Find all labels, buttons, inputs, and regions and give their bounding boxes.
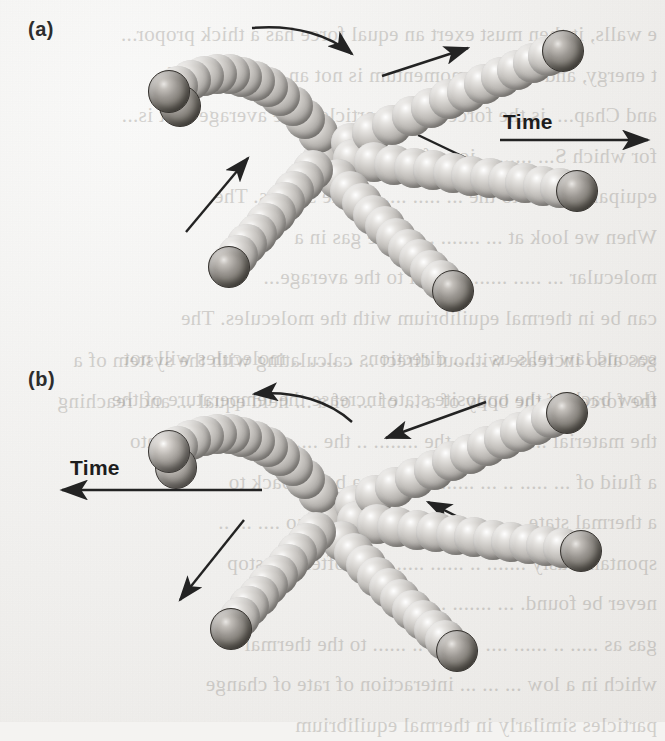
panel-b-curved-rotation-arrow [254, 393, 352, 422]
panel-b-trail-diatomic-head-sphere-1 [148, 430, 191, 473]
panel-a-arrow-lower-left [186, 158, 248, 232]
panel-a-arrow-upper-right [382, 48, 468, 76]
panel-b: (b) Time [0, 350, 665, 722]
panel-a-trail-diatomic-head-sphere-1 [148, 70, 191, 113]
panel-b-arrow-lower-left [180, 520, 244, 600]
panel-a: (a) Time [0, 0, 665, 355]
panel-a-curved-rotation-arrow [252, 27, 352, 54]
